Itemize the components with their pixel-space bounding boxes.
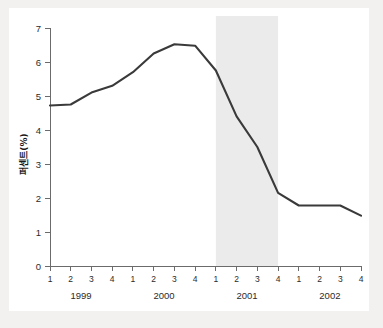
y-tick-label: 4: [36, 125, 41, 136]
chart-figure: 01234567 1234123412341234 19992000200120…: [0, 0, 383, 328]
y-tick-label: 1: [36, 227, 41, 238]
x-axis: [50, 266, 361, 271]
y-tick-label: 0: [36, 261, 41, 272]
line-chart: 01234567 1234123412341234 19992000200120…: [9, 8, 369, 311]
x-tick-label: 2: [234, 274, 239, 284]
y-tick-label: 2: [36, 193, 41, 204]
x-tick-label: 2: [151, 274, 156, 284]
y-tick-label: 5: [36, 91, 41, 102]
x-tick-label: 1: [48, 274, 53, 284]
x-tick-label: 1: [296, 274, 301, 284]
x-tick-label: 3: [172, 274, 177, 284]
x-axis-year-label: 1999: [71, 290, 92, 301]
x-axis-quarter-labels: 1234123412341234: [48, 274, 364, 284]
x-tick-label: 1: [213, 274, 218, 284]
y-tick-label: 7: [36, 23, 41, 34]
data-series: [50, 44, 361, 215]
shaded-band-2001: [216, 16, 278, 266]
x-axis-year-labels: 1999200020012002: [71, 290, 341, 301]
x-axis-year-label: 2002: [319, 290, 340, 301]
y-tick-label: 6: [36, 57, 41, 68]
y-tick-label: 3: [36, 159, 41, 170]
x-tick-label: 3: [89, 274, 94, 284]
x-tick-label: 4: [110, 274, 115, 284]
x-tick-label: 2: [68, 274, 73, 284]
x-tick-label: 4: [193, 274, 198, 284]
y-axis: 01234567: [36, 23, 50, 272]
x-tick-label: 4: [276, 274, 281, 284]
svg-text:퍼센트(%): 퍼센트(%): [18, 133, 29, 174]
y-axis-title: 퍼센트(%): [18, 133, 29, 174]
x-tick-label: 2: [317, 274, 322, 284]
x-tick-label: 4: [359, 274, 364, 284]
x-axis-year-label: 2000: [153, 290, 174, 301]
x-tick-label: 3: [338, 274, 343, 284]
x-axis-year-label: 2001: [236, 290, 257, 301]
plot-card: 01234567 1234123412341234 19992000200120…: [9, 8, 369, 311]
x-tick-label: 3: [255, 274, 260, 284]
x-tick-label: 1: [131, 274, 136, 284]
